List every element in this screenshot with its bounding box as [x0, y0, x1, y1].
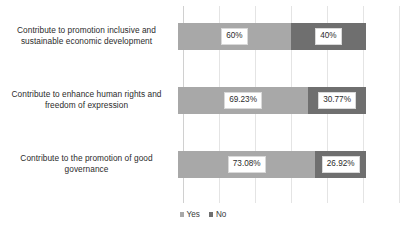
bar-value-label: 30.77%	[318, 92, 356, 109]
bar-segment-no[interactable]: 30.77%	[308, 87, 366, 114]
bar-value-label: 40%	[315, 28, 341, 45]
category-label: Contribute to the promotion of good gove…	[0, 153, 178, 176]
chart-row: Contribute to the promotion of good gove…	[0, 142, 406, 186]
bar-segment-yes[interactable]: 69.23%	[178, 87, 308, 114]
bar-value-label: 26.92%	[322, 156, 360, 173]
legend-swatch-icon	[209, 212, 214, 217]
stacked-bar: 69.23% 30.77%	[178, 87, 366, 114]
bar-value-label: 60%	[221, 28, 247, 45]
category-label: Contribute to promotion inclusive and su…	[0, 25, 178, 48]
chart-row: Contribute to promotion inclusive and su…	[0, 14, 406, 58]
stacked-bar: 73.08% 26.92%	[178, 151, 366, 178]
legend-item-yes[interactable]: Yes	[180, 210, 200, 219]
chart-row: Contribute to enhance human rights and f…	[0, 78, 406, 122]
bar-segment-no[interactable]: 40%	[291, 23, 366, 50]
bar-segment-no[interactable]: 26.92%	[315, 151, 366, 178]
legend-label: Yes	[187, 210, 200, 219]
bar-segment-yes[interactable]: 73.08%	[178, 151, 315, 178]
legend-item-no[interactable]: No	[209, 210, 226, 219]
bar-segment-yes[interactable]: 60%	[178, 23, 291, 50]
bar-value-label: 73.08%	[228, 156, 266, 173]
legend-label: No	[216, 210, 226, 219]
chart-legend: Yes No	[0, 210, 406, 219]
category-label: Contribute to enhance human rights and f…	[0, 89, 178, 112]
stacked-bar-chart: Contribute to promotion inclusive and su…	[0, 0, 406, 233]
legend-swatch-icon	[180, 212, 185, 217]
stacked-bar: 60% 40%	[178, 23, 366, 50]
bar-value-label: 69.23%	[224, 92, 262, 109]
